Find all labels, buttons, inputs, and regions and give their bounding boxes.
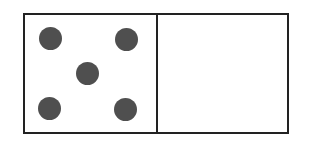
pip-bottom-left-icon: [38, 97, 61, 120]
domino-left-half: [25, 15, 156, 132]
domino-tile: [23, 13, 289, 134]
pip-top-right-icon: [115, 28, 138, 51]
pip-center-icon: [76, 62, 99, 85]
domino-right-half-blank: [158, 15, 287, 132]
pip-bottom-right-icon: [114, 98, 137, 121]
pip-top-left-icon: [39, 27, 62, 50]
